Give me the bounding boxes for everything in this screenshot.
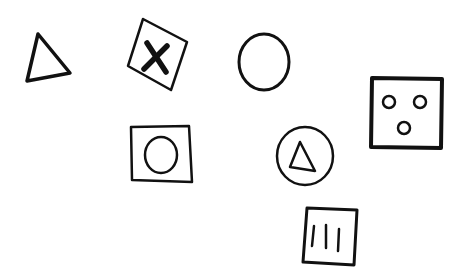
circle-icon (239, 34, 289, 90)
triangle-icon (27, 34, 70, 81)
symbols-canvas (0, 0, 464, 280)
square-with-dots-icon (371, 78, 442, 148)
square-with-x-icon (128, 19, 187, 90)
circle-with-triangle-icon (277, 127, 333, 185)
square-with-circle-icon (131, 126, 192, 182)
square-with-bars-icon (303, 208, 357, 265)
